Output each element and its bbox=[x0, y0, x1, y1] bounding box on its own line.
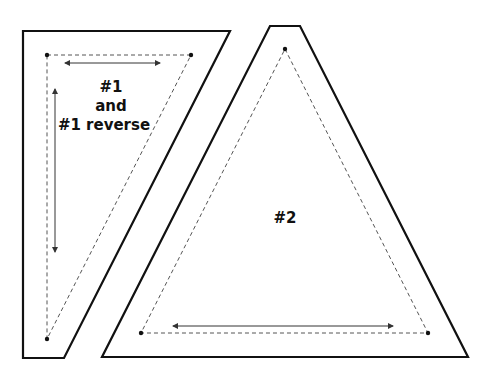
piece-1-corner-dot bbox=[45, 53, 49, 57]
piece-1-corner-dot bbox=[45, 337, 49, 341]
piece-2-corner-dot bbox=[426, 331, 430, 335]
piece-1-corner-dot bbox=[189, 53, 193, 57]
piece-2-outline bbox=[102, 26, 468, 357]
piece-2-label: #2 bbox=[273, 209, 296, 227]
piece-2-corner-dot bbox=[283, 47, 287, 51]
piece-2: #2 bbox=[102, 26, 468, 357]
piece-1-label-line-1: #1 bbox=[99, 78, 122, 96]
piece-1-label-line-3: #1 reverse bbox=[58, 116, 150, 134]
piece-2-corner-dot bbox=[139, 331, 143, 335]
piece-1-label-line-2: and bbox=[95, 97, 127, 115]
template-diagram: #1 and #1 reverse #2 bbox=[0, 0, 487, 376]
